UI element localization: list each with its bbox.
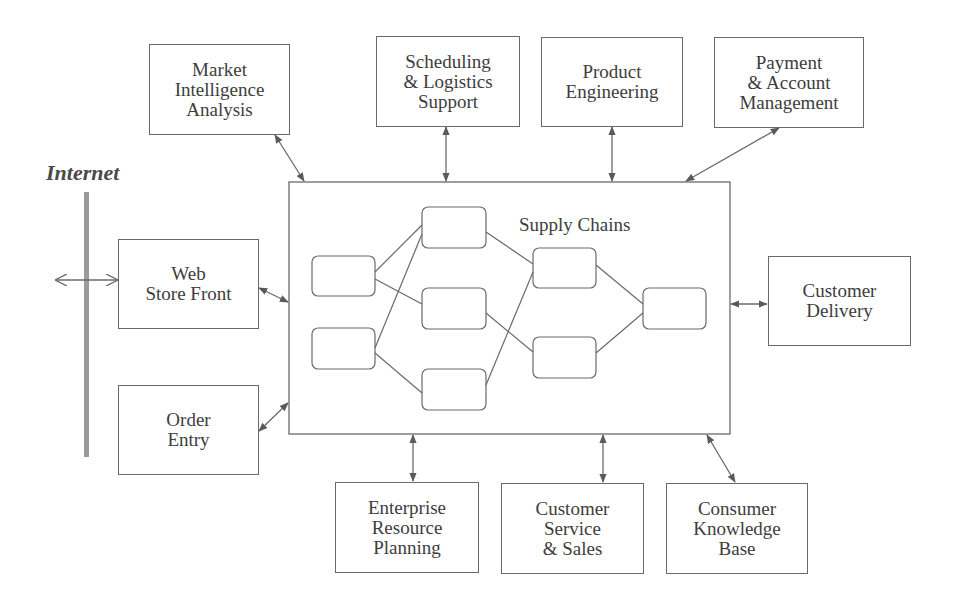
order-entry-box: Order Entry [118, 385, 259, 475]
payment-account-label: Payment & Account Management [739, 53, 838, 113]
customer-service-box: Customer Service & Sales [501, 483, 644, 574]
market-intelligence-box: Market Intelligence Analysis [149, 44, 290, 135]
erp-box: Enterprise Resource Planning [335, 482, 479, 573]
consumer-knowledge-label: Consumer Knowledge Base [693, 499, 781, 559]
order-entry-label: Order Entry [166, 410, 210, 450]
product-engineering-box: Product Engineering [541, 37, 683, 127]
customer-service-label: Customer Service & Sales [536, 499, 610, 559]
payment-account-box: Payment & Account Management [714, 37, 864, 128]
product-engineering-label: Product Engineering [566, 62, 659, 102]
scheduling-logistics-box: Scheduling & Logistics Support [376, 36, 520, 127]
supply-chain-nodes [312, 207, 706, 410]
market-intelligence-label: Market Intelligence Analysis [175, 60, 265, 120]
internet-bar [84, 192, 89, 457]
supply-chain-links [375, 225, 643, 393]
supply-chains-title: Supply Chains [519, 214, 630, 236]
erp-label: Enterprise Resource Planning [368, 498, 446, 558]
web-store-front-box: Web Store Front [118, 239, 259, 329]
customer-delivery-label: Customer Delivery [803, 281, 877, 321]
web-store-front-label: Web Store Front [145, 264, 231, 304]
customer-delivery-box: Customer Delivery [768, 256, 911, 346]
consumer-knowledge-box: Consumer Knowledge Base [666, 483, 808, 574]
scheduling-logistics-label: Scheduling & Logistics Support [403, 52, 492, 112]
